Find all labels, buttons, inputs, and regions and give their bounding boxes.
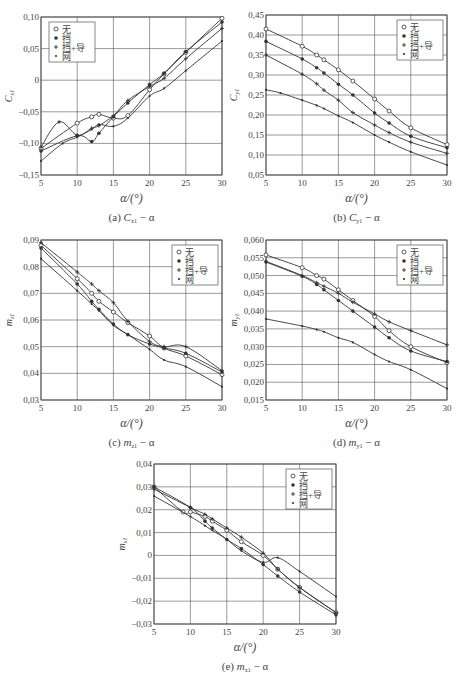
legend: 无挡挡+导网 [286,469,332,509]
plot-area: 510152025300,050,100,150,200,250,300,350… [226,9,461,235]
legend-entry: 网 [410,50,419,60]
y-tick-label: 0,055 [244,253,265,263]
x-tick-label: 10 [73,178,83,188]
y-axis-label: Cx1 [3,90,15,102]
chart-c: 510152025300,030,040,050,060,070,080,09m… [1,234,236,460]
chart-d: 510152025300,0150,0200,0250,0300,0350,04… [226,234,461,460]
y-tick-label: 0,06 [23,315,39,325]
y-tick-label: 0,40 [248,30,264,40]
x-tick-label: 5 [152,627,157,637]
chart-e: 51015202530−0,03−0,02−0,0100,010,020,030… [114,458,350,675]
y-tick-label: 0,10 [23,12,39,22]
y-tick-label: 0,30 [248,70,264,80]
x-tick-label: 30 [443,178,453,188]
figure-caption: (e) mx1 − α [222,660,269,673]
y-tick-label: −0,03 [131,619,152,629]
x-tick-label: 10 [298,178,308,188]
x-tick-label: 25 [406,178,416,188]
y-tick-label: 0,050 [244,271,265,281]
x-tick-label: 5 [39,178,44,188]
y-tick-label: −0,02 [131,596,152,606]
figure-caption: (d) my1 − α [333,436,380,449]
legend: 无挡挡+导网 [49,22,95,62]
y-tick-label: 0,02 [136,505,152,515]
x-tick-label: 10 [73,403,83,413]
y-tick-label: 0,15 [248,130,264,140]
x-tick-label: 5 [264,403,269,413]
legend-entry: 网 [410,275,419,285]
x-tick-label: 15 [222,627,232,637]
y-tick-label: 0,03 [23,395,39,405]
y-tick-label: 0,030 [244,342,265,352]
y-tick-label: 0,20 [248,110,264,120]
y-tick-label: 0,045 [244,288,265,298]
y-tick-label: −0,10 [18,138,39,148]
x-axis-label: α/(°) [345,416,367,430]
chart-b: 510152025300,050,100,150,200,250,300,350… [226,9,461,235]
y-tick-label: 0,09 [23,235,39,245]
y-tick-label: 0,05 [23,44,39,54]
x-tick-label: 25 [181,403,191,413]
y-tick-label: 0,04 [23,368,39,378]
x-tick-label: 20 [370,178,380,188]
y-axis-label: my1 [228,314,240,327]
y-tick-label: 0,07 [23,288,39,298]
y-tick-label: 0 [148,550,153,560]
y-tick-label: 0,040 [244,306,265,316]
series-3 [265,89,448,166]
x-tick-label: 10 [186,627,196,637]
x-tick-label: 5 [39,403,44,413]
plot-area: 510152025300,030,040,050,060,070,080,09m… [1,234,236,460]
y-axis-label: Cy1 [228,89,240,101]
legend: 无挡挡+导网 [397,245,443,285]
x-tick-label: 15 [334,403,344,413]
y-tick-label: 0,025 [244,359,265,369]
x-tick-label: 25 [406,403,416,413]
y-tick-label: −0,01 [131,573,152,583]
y-tick-label: 0,45 [248,10,264,20]
legend: 无挡挡+导网 [397,20,443,60]
chart-a: 51015202530−0,15−0,10−0,0500,050,10Cx1α/… [1,11,236,235]
x-tick-label: 20 [145,178,155,188]
x-tick-label: 25 [295,627,305,637]
plot-area: 51015202530−0,15−0,10−0,0500,050,10Cx1α/… [1,11,236,235]
x-tick-label: 15 [109,403,119,413]
legend-entry: 网 [62,52,71,62]
y-tick-label: 0,05 [248,170,264,180]
x-tick-label: 10 [298,403,308,413]
legend-entry: 网 [185,275,194,285]
figure-caption: (b) Cy1 − α [333,211,380,224]
y-tick-label: 0,015 [244,395,265,405]
x-tick-label: 30 [332,627,342,637]
x-tick-label: 30 [443,403,453,413]
x-axis-label: α/(°) [120,416,142,430]
y-tick-label: 0,10 [248,150,264,160]
y-tick-label: 0,020 [244,377,265,387]
y-tick-label: −0,05 [18,107,39,117]
x-axis-label: α/(°) [120,191,142,205]
legend: 无挡挡+导网 [172,245,218,285]
y-tick-label: 0,04 [136,459,152,469]
x-axis-label: α/(°) [345,191,367,205]
x-tick-label: 20 [370,403,380,413]
y-tick-label: −0,15 [18,170,39,180]
x-tick-label: 20 [259,627,269,637]
x-axis-label: α/(°) [234,640,256,654]
x-tick-label: 20 [145,403,155,413]
y-tick-label: 0 [35,75,40,85]
y-tick-label: 0,08 [23,262,39,272]
y-axis-label: mx1 [116,538,128,551]
y-tick-label: 0,05 [23,342,39,352]
plot-area: 51015202530−0,03−0,02−0,0100,010,020,030… [114,458,350,675]
legend-entry: 网 [299,499,308,509]
y-tick-label: 0,01 [136,528,152,538]
x-tick-label: 15 [109,178,119,188]
y-tick-label: 0,03 [136,482,152,492]
figure-caption: (c) mz1 − α [108,436,154,449]
plot-area: 510152025300,0150,0200,0250,0300,0350,04… [226,234,461,460]
x-tick-label: 15 [334,178,344,188]
x-tick-label: 5 [264,178,269,188]
y-tick-label: 0,035 [244,324,265,334]
y-axis-label: mz1 [3,314,15,327]
y-tick-label: 0,060 [244,235,265,245]
